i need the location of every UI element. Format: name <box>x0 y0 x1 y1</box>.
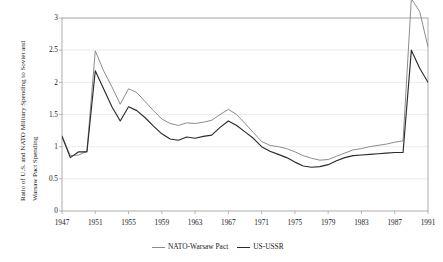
series-line-us-ussr <box>62 50 428 167</box>
gridlines <box>59 18 428 214</box>
legend-swatch-icon <box>152 247 165 248</box>
chart-legend: NATO-Warsaw PactUS-USSR <box>152 240 284 254</box>
legend-label: NATO-Warsaw Pact <box>168 243 228 250</box>
legend-entry-us-ussr[interactable]: US-USSR <box>237 243 283 250</box>
legend-label: US-USSR <box>253 243 283 250</box>
data-series-group <box>62 0 428 167</box>
ratio-military-spending-line-chart: Ratio of U.S. and NATO Military Spending… <box>0 0 443 262</box>
series-line-nato-warsaw-pact <box>62 0 428 160</box>
legend-entry-nato-warsaw-pact[interactable]: NATO-Warsaw Pact <box>152 243 228 250</box>
plot-area <box>0 0 443 262</box>
legend-swatch-icon <box>237 247 250 248</box>
